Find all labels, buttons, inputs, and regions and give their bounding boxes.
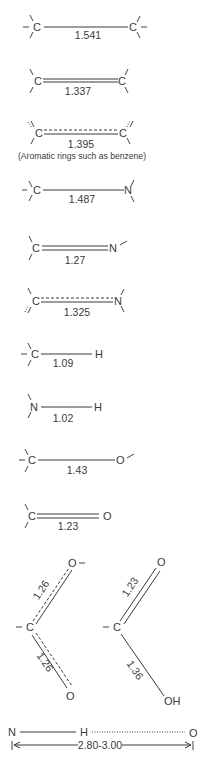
acid-hydroxyl: OH — [164, 695, 181, 707]
hydrogen-bond: N H O 2.80-3.00 — [8, 726, 198, 751]
aromatic-note: (Aromatic rings such as benzene) — [18, 151, 146, 161]
carboxylate-top-oxygen: O — [68, 557, 77, 569]
bond-c-c-aromatic: C C 1.395 (Aromatic rings such as benzen… — [18, 121, 146, 161]
bond-c-h: C H 1.09 — [21, 343, 103, 369]
hbond-acceptor: O — [189, 727, 198, 739]
bond-length-label: 1.541 — [75, 29, 101, 41]
atom-left: N — [30, 401, 38, 413]
carboxylate-bottom-oxygen: O — [66, 690, 75, 702]
bond-length-label: 1.23 — [58, 520, 79, 532]
bond-length-label: 1.487 — [69, 193, 95, 205]
carboxylic-acid-group: O 1.23 C 1.36 OH — [103, 556, 181, 707]
bond-length-label: 1.337 — [65, 85, 91, 97]
atom-right: O — [103, 510, 112, 522]
bond-c-o-double: C O 1.23 — [25, 504, 112, 532]
bond-n-h: N H 1.02 — [28, 394, 102, 424]
bond-c-c-single: C C 1.541 — [23, 15, 147, 41]
atom-right: H — [94, 401, 102, 413]
hbond-hydrogen: H — [80, 726, 88, 738]
bond-length-label: 1.43 — [67, 464, 88, 476]
atom-left: C — [32, 242, 40, 254]
atom-right: O — [116, 454, 125, 466]
atom-left: C — [28, 510, 36, 522]
acid-carbon: C — [113, 621, 121, 633]
bond-c-c-double: C C 1.337 — [30, 69, 128, 97]
bond-c-n-single: C N 1.487 — [22, 180, 134, 205]
hbond-donor: N — [8, 726, 16, 738]
atom-left: C — [28, 454, 36, 466]
atom-left: C — [33, 184, 41, 196]
atom-right: N — [114, 295, 122, 307]
atom-left: C — [32, 295, 40, 307]
bond-length-label: 1.27 — [65, 254, 86, 266]
atom-left: C — [33, 21, 41, 33]
atom-right: C — [119, 127, 127, 139]
bond-c-n-double: C N 1.27 — [29, 236, 127, 266]
bond-length-label: 1.395 — [68, 138, 94, 150]
acid-bottom-length: 1.36 — [125, 658, 146, 682]
atom-right: N — [109, 242, 117, 254]
carboxylate-carbon: C — [26, 621, 34, 633]
acid-top-oxygen: O — [157, 556, 166, 568]
atom-left: C — [31, 348, 39, 360]
bond-length-label: 1.02 — [53, 412, 74, 424]
carboxylate-bottom-length: 1.26 — [35, 650, 56, 674]
bond-length-label: 1.09 — [53, 357, 74, 369]
bond-c-n-partial: C N 1.325 — [25, 288, 124, 318]
bond-length-label: 1.325 — [64, 306, 90, 318]
hbond-distance-label: 2.80-3.00 — [78, 739, 123, 751]
atom-left: C — [34, 75, 42, 87]
bond-length-diagram: C C 1.541 C C 1.337 C C 1.395 (Aromatic … — [0, 0, 202, 759]
atom-left: C — [35, 127, 43, 139]
atom-right: H — [95, 348, 103, 360]
bond-c-o-single: C O 1.43 — [19, 449, 134, 476]
atom-right: C — [118, 75, 126, 87]
carboxylate-group: O 1.26 C 1.26 O — [16, 557, 85, 702]
atom-right: C — [129, 21, 137, 33]
